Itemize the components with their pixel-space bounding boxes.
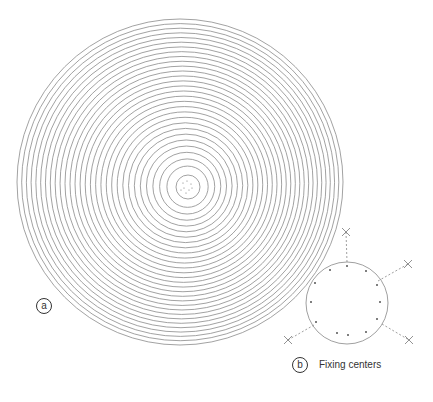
panel-b-badge: b xyxy=(292,357,308,373)
fixing-centers-diagram xyxy=(284,228,413,344)
diagram-canvas xyxy=(0,0,433,402)
center-dots xyxy=(180,180,192,193)
concentric-rings xyxy=(17,19,343,345)
panel-b-caption: Fixing centers xyxy=(319,359,381,370)
panel-a-badge: a xyxy=(36,298,52,314)
fixing-points xyxy=(310,265,381,336)
